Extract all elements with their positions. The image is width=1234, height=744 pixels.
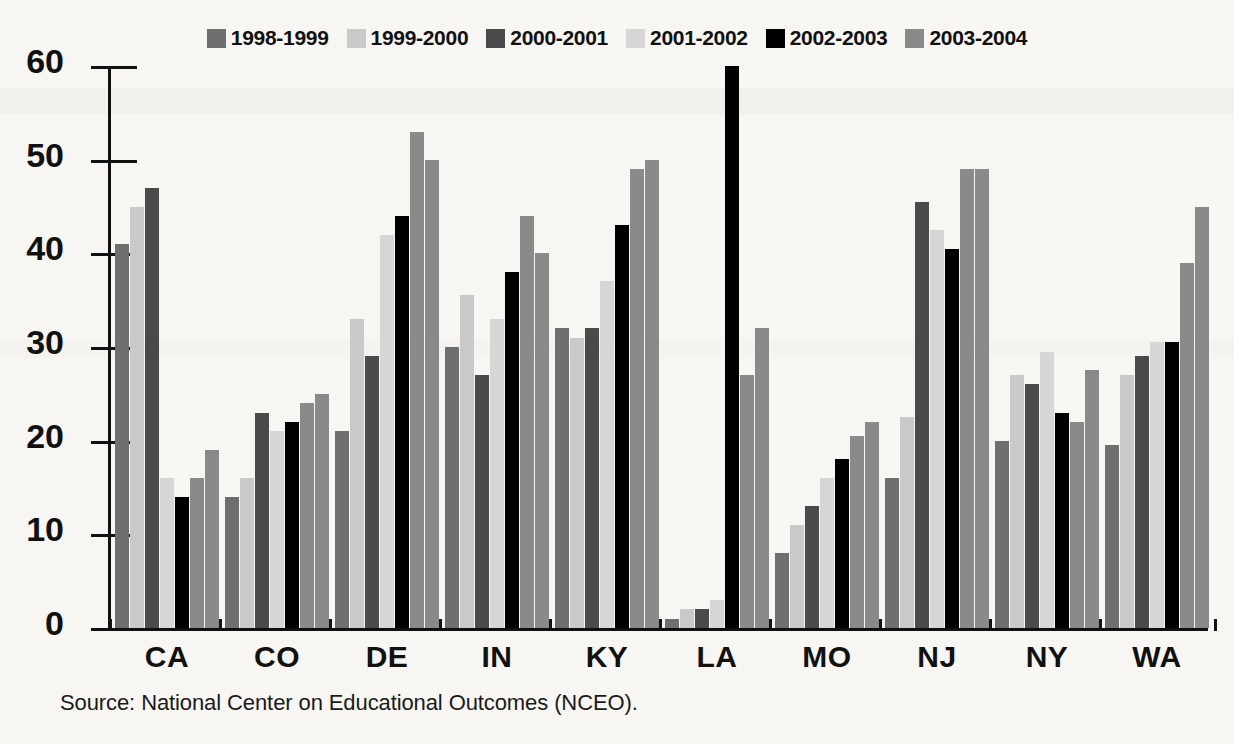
bar xyxy=(1180,263,1194,628)
bar xyxy=(555,328,569,628)
x-axis-category-label: KY xyxy=(586,640,629,674)
y-axis-tick xyxy=(91,253,108,256)
bar xyxy=(535,253,549,628)
legend-item: 2002-2003 xyxy=(766,26,888,50)
x-axis-category-label: NJ xyxy=(917,640,956,674)
bar xyxy=(915,202,929,628)
x-axis-category-label: WA xyxy=(1132,640,1181,674)
bar xyxy=(755,328,769,628)
bar xyxy=(445,347,459,628)
bar xyxy=(960,169,974,628)
x-axis-tick xyxy=(549,619,552,631)
legend-swatch-icon xyxy=(486,29,505,48)
bar xyxy=(695,609,709,628)
legend-item: 2000-2001 xyxy=(486,26,608,50)
source-note: Source: National Center on Educational O… xyxy=(60,690,638,716)
legend-label: 2000-2001 xyxy=(510,26,608,50)
legend-label: 1998-1999 xyxy=(231,26,329,50)
bar xyxy=(160,478,174,628)
y-axis-label: 30 xyxy=(0,325,64,359)
x-axis-category-label: LA xyxy=(697,640,738,674)
bar xyxy=(1105,445,1119,628)
bar xyxy=(380,235,394,628)
y-axis-label: 40 xyxy=(0,231,64,265)
bar-group xyxy=(445,66,549,628)
x-axis-category-label: DE xyxy=(366,640,409,674)
bar xyxy=(900,417,914,628)
x-axis-category-label: CA xyxy=(145,640,189,674)
y-axis-tick xyxy=(91,534,108,537)
y-axis-label: 60 xyxy=(0,44,64,78)
bar xyxy=(475,375,489,628)
x-axis-category-label: CO xyxy=(254,640,300,674)
x-axis-tick xyxy=(219,619,222,631)
bar xyxy=(600,281,614,628)
bar xyxy=(835,459,849,628)
legend-label: 2003-2004 xyxy=(929,26,1027,50)
bar xyxy=(665,619,679,628)
bar xyxy=(1135,356,1149,628)
y-axis-tick xyxy=(91,347,108,350)
bar xyxy=(680,609,694,628)
bar xyxy=(1025,384,1039,628)
x-axis-tick xyxy=(329,619,332,631)
legend-label: 2001-2002 xyxy=(650,26,748,50)
bar xyxy=(975,169,989,628)
bar-group xyxy=(1105,66,1209,628)
bar xyxy=(145,188,159,628)
chart-figure: 1998-19991999-20002000-20012001-20022002… xyxy=(0,0,1234,744)
bar xyxy=(255,413,269,628)
bar xyxy=(1150,342,1164,628)
bar xyxy=(395,216,409,628)
bar xyxy=(570,338,584,628)
bar xyxy=(585,328,599,628)
bar xyxy=(740,375,754,628)
bar-group xyxy=(225,66,329,628)
legend-swatch-icon xyxy=(905,29,924,48)
legend-item: 2003-2004 xyxy=(905,26,1027,50)
bar xyxy=(1055,413,1069,628)
bar xyxy=(805,506,819,628)
legend-item: 2001-2002 xyxy=(626,26,748,50)
legend-label: 2002-2003 xyxy=(790,26,888,50)
bar xyxy=(885,478,899,628)
bar xyxy=(930,230,944,628)
bar-group xyxy=(555,66,659,628)
bar xyxy=(490,319,504,628)
y-axis-label: 50 xyxy=(0,138,64,172)
chart-legend: 1998-19991999-20002000-20012001-20022002… xyxy=(0,26,1234,50)
legend-swatch-icon xyxy=(626,29,645,48)
bar xyxy=(790,525,804,628)
bar xyxy=(240,478,254,628)
bar xyxy=(505,272,519,628)
y-axis-label: 0 xyxy=(0,606,64,640)
x-axis-category-label: NY xyxy=(1026,640,1069,674)
bar xyxy=(710,600,724,628)
bar xyxy=(365,356,379,628)
bar xyxy=(130,207,144,629)
bar xyxy=(285,422,299,628)
bar xyxy=(335,431,349,628)
x-axis-tick xyxy=(659,619,662,631)
bar xyxy=(850,436,864,628)
bar xyxy=(630,169,644,628)
bar xyxy=(410,132,424,628)
bar xyxy=(460,295,474,628)
x-axis-tick xyxy=(1099,619,1102,631)
bar xyxy=(645,160,659,628)
bar xyxy=(115,244,129,628)
bar xyxy=(725,66,739,628)
legend-swatch-icon xyxy=(347,29,366,48)
x-axis-tick xyxy=(439,619,442,631)
bar xyxy=(1165,342,1179,628)
bar xyxy=(820,478,834,628)
x-axis-tick xyxy=(989,619,992,631)
bar xyxy=(1040,352,1054,628)
x-axis-tick xyxy=(1214,619,1217,631)
bar xyxy=(1085,370,1099,628)
y-axis-tick xyxy=(91,628,108,631)
plot-area: 0102030405060 xyxy=(108,66,1208,631)
x-axis-tick xyxy=(879,619,882,631)
bar-group xyxy=(665,66,769,628)
bar xyxy=(1195,207,1209,629)
